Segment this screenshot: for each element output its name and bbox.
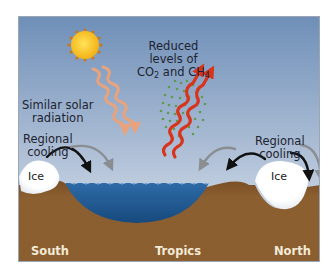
label-line: radiation [22, 112, 94, 125]
label-north: North [274, 245, 311, 258]
label-regional-cooling-left: Regional cooling [23, 133, 73, 159]
label-line: cooling [23, 146, 73, 159]
subscript-4: 4 [205, 71, 210, 80]
label-line: cooling [255, 148, 305, 161]
label-similar-solar-radiation: Similar solar radiation [22, 99, 94, 125]
and-ch-text: and CH [159, 65, 205, 79]
label-south: South [31, 245, 69, 258]
label-tropics: Tropics [155, 245, 201, 258]
diagram-panel: Similar solar radiation Reduced levels o… [18, 16, 320, 262]
label-line-co2-ch4: CO2 and CH4 [137, 66, 210, 79]
label-ice-south: Ice [28, 170, 44, 183]
co-text: CO [137, 65, 154, 79]
label-ice-north: Ice [271, 170, 287, 183]
label-reduced-gases: Reduced levels of CO2 and CH4 [137, 40, 210, 79]
label-regional-cooling-right: Regional cooling [255, 135, 305, 161]
